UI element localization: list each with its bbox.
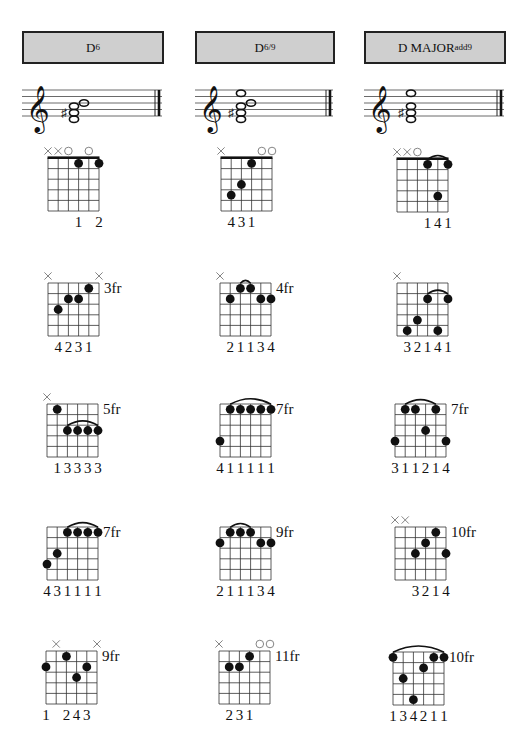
finger-dot-icon [423, 160, 432, 169]
chord-diagram: 7fr431111 [35, 511, 155, 611]
finger-number: 3 [403, 339, 411, 355]
finger-dot-icon [256, 295, 265, 304]
treble-clef-icon: 𝄞 [199, 86, 223, 134]
fret-position-label: 5fr [103, 401, 121, 417]
finger-dot-icon [63, 528, 72, 537]
finger-dot-icon [246, 405, 255, 414]
finger-number: 2 [63, 707, 71, 723]
whole-note-icon [236, 90, 245, 97]
fret-position-label: 7fr [451, 401, 469, 417]
finger-dot-icon [54, 305, 63, 314]
chord-diagram: 3fr4231 [36, 267, 156, 367]
open-string-icon [268, 147, 276, 155]
sharp-icon: ♯ [398, 106, 404, 120]
finger-number: 1 [85, 339, 93, 355]
finger-number: 1 [440, 708, 448, 724]
fret-position-label: 3fr [104, 280, 122, 296]
finger-dot-icon [237, 180, 246, 189]
finger-dot-icon [94, 528, 103, 537]
finger-number: 4 [410, 708, 418, 724]
nut [48, 156, 100, 159]
finger-dot-icon [63, 426, 72, 435]
open-string-icon [85, 147, 93, 155]
muted-string-icon [93, 640, 100, 647]
finger-number: 1 [424, 339, 432, 355]
finger-number: 1 [247, 583, 255, 599]
finger-number: 1 [432, 460, 440, 476]
finger-number: 4 [434, 339, 442, 355]
finger-dot-icon [413, 316, 422, 325]
finger-dot-icon [256, 405, 265, 414]
finger-number: 4 [442, 460, 450, 476]
open-string-icon [414, 148, 422, 156]
finger-dot-icon [444, 160, 453, 169]
treble-clef-icon: 𝄞 [26, 86, 50, 134]
finger-number: 2 [216, 583, 224, 599]
finger-number: 4 [442, 583, 450, 599]
finger-dot-icon [440, 653, 449, 662]
whole-note-icon [69, 116, 78, 123]
whole-note-icon [406, 116, 415, 123]
finger-number: 2 [422, 583, 430, 599]
finger-number: 1 [247, 339, 255, 355]
chord-diagram: 11fr231 [207, 635, 327, 735]
finger-dot-icon [423, 295, 432, 304]
chord-name: D [86, 40, 95, 56]
finger-number: 3 [53, 583, 61, 599]
finger-dot-icon [82, 663, 91, 672]
finger-number: 4 [54, 339, 62, 355]
fret-position-label: 9fr [276, 524, 294, 540]
chord-diagram: 4fr21134 [208, 267, 328, 367]
staff-2: 𝄞♯ [364, 80, 506, 136]
fret-position-label: 7fr [103, 524, 121, 540]
finger-number: 2 [414, 339, 422, 355]
barre-arc-icon [67, 421, 98, 426]
finger-number: 2 [225, 707, 233, 723]
finger-dot-icon [389, 653, 398, 662]
finger-number: 2 [226, 339, 234, 355]
nut [221, 156, 273, 159]
chord-name: D MAJOR [398, 40, 455, 56]
chord-suffix: add9 [455, 42, 473, 52]
whole-note-icon [406, 109, 415, 116]
muted-string-icon [215, 640, 222, 647]
finger-dot-icon [431, 528, 440, 537]
finger-number: 2 [420, 708, 428, 724]
whole-note-icon [69, 103, 78, 110]
finger-dot-icon [421, 539, 430, 548]
finger-dot-icon [62, 652, 71, 661]
finger-number: 4 [227, 214, 235, 230]
chord-diagram: 7fr411111 [208, 388, 328, 488]
finger-number: 1 [237, 583, 245, 599]
staff-1: 𝄞♯ [195, 80, 335, 136]
finger-dot-icon [256, 539, 265, 548]
finger-number: 1 [444, 215, 452, 231]
finger-number: 1 [257, 460, 265, 476]
finger-number: 1 [432, 583, 440, 599]
whole-note-icon [406, 90, 415, 97]
finger-number: 3 [257, 583, 265, 599]
finger-number: 1 [267, 460, 275, 476]
finger-number: 1 [248, 214, 256, 230]
finger-dot-icon [43, 560, 52, 569]
finger-number: 1 [226, 460, 234, 476]
finger-number: 1 [75, 214, 83, 230]
finger-dot-icon [247, 159, 256, 168]
chord-suffix: 6 [95, 42, 100, 52]
barre-arc-icon [405, 400, 436, 405]
finger-number: 1 [94, 583, 102, 599]
open-string-icon [258, 147, 266, 155]
muted-string-icon [217, 147, 224, 154]
finger-dot-icon [411, 549, 420, 558]
finger-dot-icon [236, 284, 245, 293]
finger-dot-icon [267, 405, 276, 414]
open-string-icon [65, 147, 73, 155]
muted-string-icon [43, 393, 50, 400]
whole-note-icon [236, 116, 245, 123]
finger-dot-icon [267, 539, 276, 548]
chord-diagram: 32141 [385, 267, 505, 367]
finger-dot-icon [95, 159, 104, 168]
finger-dot-icon [74, 159, 83, 168]
fret-position-label: 10fr [449, 649, 474, 665]
finger-dot-icon [216, 437, 225, 446]
